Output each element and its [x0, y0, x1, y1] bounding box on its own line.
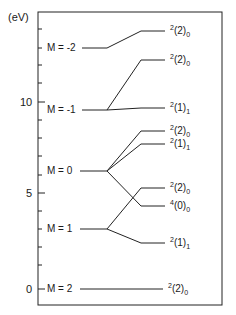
level-label-m-1: M = 1 [47, 224, 72, 234]
y-tick-label-10: 10 [20, 97, 32, 108]
y-axis-unit: (eV) [8, 12, 29, 23]
state-label: 2(1)1 [170, 103, 190, 113]
level-label-m-2: M = 2 [47, 284, 72, 294]
energy-level-diagram [0, 0, 236, 315]
state-label: 2(1)1 [170, 238, 190, 248]
plot-frame [38, 12, 222, 305]
y-axis-ticks [38, 29, 45, 289]
state-label: 2(1)1 [170, 139, 190, 149]
state-label: 2(2)0 [170, 26, 190, 36]
state-label: 4(0)0 [170, 201, 190, 211]
y-tick-label-0: 0 [26, 284, 32, 295]
state-label: 2(2)0 [170, 55, 190, 65]
state-label: 2(2)0 [168, 284, 188, 294]
level-label-m-minus-1: M = -1 [47, 105, 76, 115]
state-label: 2(2)0 [170, 183, 190, 193]
level-label-m-minus-2: M = -2 [47, 43, 76, 53]
state-label: 2(2)0 [170, 126, 190, 136]
y-tick-label-5: 5 [26, 188, 32, 199]
level-label-m-0: M = 0 [47, 166, 72, 176]
level-lines [80, 31, 165, 289]
